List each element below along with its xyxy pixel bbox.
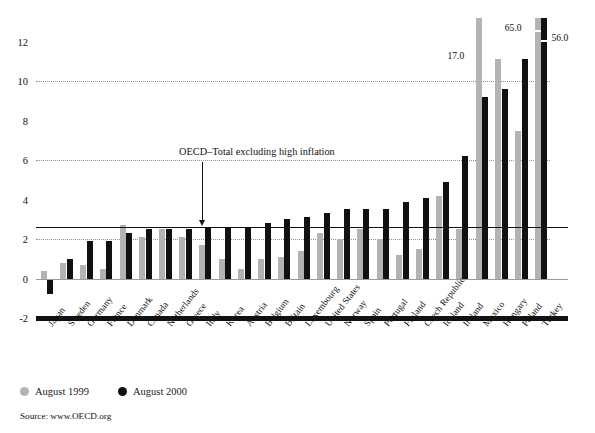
bar-series-container — [36, 18, 550, 318]
bar-greece-1999 — [179, 237, 185, 278]
y-axis-tick-label: 0 — [23, 273, 28, 284]
bar-korea-1999 — [219, 259, 225, 279]
bar-united-states-1999 — [317, 233, 323, 278]
oecd-reference-label: OECD–Total excluding high inflation — [179, 146, 335, 157]
bar-korea-2000 — [225, 227, 231, 278]
legend-swatch-black-icon — [118, 387, 127, 396]
bar-austria-2000 — [245, 227, 251, 278]
bar-netherlands-1999 — [159, 229, 165, 278]
y-axis-tick-label: 10 — [18, 76, 29, 87]
clipped-bar-notch — [535, 30, 541, 32]
oecd-reference-line — [36, 227, 568, 228]
bar-mexico-2000 — [482, 97, 488, 279]
y-axis-tick-label: 4 — [23, 194, 28, 205]
chart-legend: August 1999 August 2000 — [20, 386, 209, 397]
bar-united-states-2000 — [324, 213, 330, 278]
inflation-bar-chart: 121086420-2 17.065.056.0 OECD–Total excl… — [0, 0, 595, 433]
y-axis-tick-label: 2 — [23, 234, 28, 245]
y-axis-tick-label: -2 — [19, 313, 28, 324]
bar-turkey-2000 — [541, 18, 547, 279]
bar-austria-1999 — [238, 269, 244, 279]
bar-finland-1999 — [396, 255, 402, 279]
bar-hungary-2000 — [502, 89, 508, 278]
bar-italy-1999 — [199, 245, 205, 279]
bar-italy-2000 — [205, 227, 211, 278]
bar-belgium-2000 — [265, 223, 271, 278]
bar-netherlands-2000 — [166, 229, 172, 278]
x-axis-category-labels: JapanSwedenGermanyFranceDenmarkCanadaNet… — [36, 322, 550, 382]
bar-ireland-2000 — [462, 156, 468, 278]
bar-ireland-1999 — [456, 229, 462, 278]
bar-germany-1999 — [80, 265, 86, 279]
bar-britain-1999 — [278, 257, 284, 279]
bar-portugal-2000 — [383, 209, 389, 278]
bar-luxembourg-1999 — [298, 251, 304, 279]
bar-spain-1999 — [357, 229, 363, 278]
source-note: Source: www.OECD.org — [20, 411, 111, 421]
legend-item-august-2000: August 2000 — [118, 386, 187, 397]
bar-turkey-1999 — [535, 18, 541, 279]
bar-finland-2000 — [403, 202, 409, 279]
value-label-turkey-2000: 56.0 — [551, 32, 568, 43]
bar-belgium-1999 — [258, 259, 264, 279]
bar-sweden-1999 — [60, 263, 66, 279]
oecd-arrow-shaft — [202, 162, 203, 221]
bar-poland-1999 — [515, 131, 521, 279]
bar-denmark-1999 — [120, 225, 126, 278]
bar-mexico-1999 — [476, 18, 482, 279]
bar-hungary-1999 — [495, 59, 501, 278]
bar-greece-2000 — [186, 229, 192, 278]
legend-label-august-1999: August 1999 — [35, 386, 89, 397]
bar-canada-1999 — [139, 237, 145, 278]
plot-area: 121086420-2 17.065.056.0 OECD–Total excl… — [36, 18, 550, 318]
bar-norway-2000 — [344, 209, 350, 278]
clipped-bar-notch — [541, 40, 547, 42]
bar-france-1999 — [100, 269, 106, 279]
bar-japan-2000 — [47, 279, 53, 295]
bar-germany-2000 — [87, 241, 93, 279]
legend-label-august-2000: August 2000 — [133, 386, 187, 397]
bar-france-2000 — [106, 241, 112, 279]
bar-sweden-2000 — [67, 259, 73, 279]
y-axis-tick-label: 6 — [23, 155, 28, 166]
bar-portugal-1999 — [377, 239, 383, 278]
value-label-mexico-1999: 17.0 — [448, 50, 465, 61]
bar-poland-2000 — [522, 59, 528, 278]
bar-japan-1999 — [41, 271, 47, 279]
y-axis-tick-label: 12 — [18, 36, 29, 47]
bar-spain-2000 — [363, 209, 369, 278]
bar-canada-2000 — [146, 229, 152, 278]
legend-item-august-1999: August 1999 — [20, 386, 89, 397]
bar-czech-republic-2000 — [423, 198, 429, 279]
bar-iceland-2000 — [443, 182, 449, 279]
oecd-arrow-head — [199, 220, 205, 226]
zero-baseline — [36, 279, 568, 280]
legend-swatch-gray-icon — [20, 387, 29, 396]
bar-czech-republic-1999 — [416, 249, 422, 279]
value-label-turkey-1999: 65.0 — [505, 22, 522, 33]
bar-iceland-1999 — [436, 196, 442, 279]
bar-denmark-2000 — [126, 233, 132, 278]
bar-norway-1999 — [337, 239, 343, 278]
y-axis-tick-label: 8 — [23, 115, 28, 126]
